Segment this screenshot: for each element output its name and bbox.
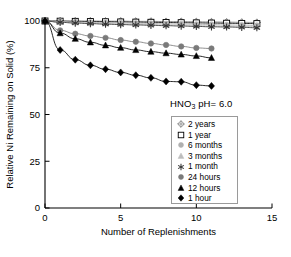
data-point-marker (178, 78, 184, 85)
y-tick-label: 25 (29, 156, 40, 167)
legend-item[interactable]: 3 months (175, 151, 237, 162)
x-axis-label: Number of Replenishments (101, 226, 216, 237)
data-point-marker (163, 42, 168, 47)
data-point-marker (178, 185, 184, 190)
annotation-post: pH= 6.0 (195, 98, 232, 109)
data-point-marker (209, 46, 214, 51)
legend-item[interactable]: 1 month (175, 161, 237, 172)
data-point-marker (178, 195, 184, 201)
chart-annotation: HNO3 pH= 6.0 (170, 98, 232, 109)
data-point-marker (148, 74, 154, 81)
data-point-marker (102, 66, 108, 73)
data-point-marker (103, 35, 108, 40)
data-point-marker (163, 78, 169, 85)
data-point-marker (57, 46, 63, 53)
legend-label: 1 month (188, 161, 218, 172)
legend-label: 1 hour (188, 193, 212, 204)
annotation-pre: HNO (170, 98, 191, 109)
legend-label: 1 year (188, 130, 211, 141)
legend-label: 24 hours (188, 172, 220, 183)
legend-item[interactable]: 1 hour (175, 193, 237, 204)
data-point-marker (133, 39, 138, 44)
chart-container: 0510150255075100Number of Replenishments… (0, 0, 291, 257)
data-point-marker (179, 175, 184, 180)
y-tick-label: 50 (29, 109, 40, 120)
legend-item[interactable]: 6 months (175, 140, 237, 151)
y-axis-label: Relative Ni Remaining on Solid (%) (4, 40, 15, 188)
data-point-marker (194, 45, 199, 50)
legend-item[interactable]: 24 hours (175, 172, 237, 183)
data-point-marker (208, 82, 214, 89)
legend-marker-filled-diamond-icon (175, 193, 188, 203)
legend-label: 2 years (188, 119, 215, 130)
chart-legend: 2 years1 year6 months3 months1 month24 h… (171, 116, 238, 204)
data-point-marker (178, 132, 184, 138)
series-line (45, 21, 211, 86)
legend-marker-filled-triangle-icon (175, 183, 188, 193)
legend-marker-filled-circle-icon (175, 172, 188, 182)
y-tick-label: 100 (24, 15, 40, 26)
legend-label: 6 months (188, 140, 222, 151)
x-tick-label: 10 (191, 212, 202, 223)
annotation-subscript: 3 (191, 103, 195, 110)
chart-plot: 0510150255075100Number of Replenishments… (0, 0, 291, 257)
data-point-marker (179, 44, 184, 49)
y-tick-label: 0 (35, 202, 40, 213)
data-point-marker (148, 41, 153, 46)
data-point-marker (193, 82, 199, 89)
legend-item[interactable]: 2 years (175, 119, 237, 130)
legend-marker-filled-circle-light-icon (175, 140, 188, 150)
legend-label: 3 months (188, 151, 222, 162)
data-point-marker (179, 143, 184, 148)
x-tick-label: 5 (118, 212, 123, 223)
legend-marker-star-icon (175, 162, 188, 172)
y-tick-label: 75 (29, 62, 40, 73)
x-tick-label: 15 (267, 212, 278, 223)
legend-marker-open-square-icon (175, 130, 188, 140)
legend-item[interactable]: 12 hours (175, 183, 237, 194)
data-point-marker (133, 72, 139, 79)
series-1-hour (42, 18, 215, 90)
data-point-marker (178, 153, 184, 158)
data-point-marker (88, 33, 93, 38)
data-point-marker (118, 69, 124, 76)
data-point-marker (72, 56, 78, 63)
legend-marker-filled-triangle-light-icon (175, 151, 188, 161)
legend-marker-open-cross-diamond-icon (175, 119, 188, 129)
data-point-marker (118, 37, 123, 42)
data-point-marker (87, 62, 93, 69)
x-tick-label: 0 (42, 212, 47, 223)
legend-item[interactable]: 1 year (175, 130, 237, 141)
legend-label: 12 hours (188, 183, 220, 194)
